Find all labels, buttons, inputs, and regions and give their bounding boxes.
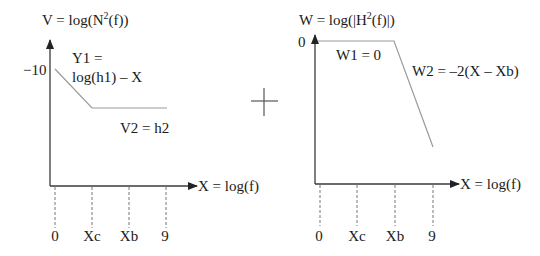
left-y-tick-label: −10	[23, 62, 46, 78]
left-x-tick-xb: Xb	[120, 228, 138, 244]
left-x-tick-xc: Xc	[83, 228, 101, 244]
right-x-tick-9: 9	[428, 228, 436, 244]
left-x-axis-label: X = log(f)	[198, 178, 259, 195]
right-x-tick-0: 0	[315, 228, 323, 244]
diagram-canvas: V = log(N2(f)) X = log(f) −10 Y1 = log(h…	[0, 0, 540, 256]
right-x-tick-xc: Xc	[348, 228, 366, 244]
right-segment2-label: W2 = –2(X – Xb)	[412, 63, 519, 80]
left-y-axis-label: V = log(N2(f))	[42, 10, 129, 29]
right-x-axis-label: X = log(f)	[460, 176, 521, 193]
left-x-tick-9: 9	[161, 228, 169, 244]
left-segment1-label-line2: log(h1) – X	[72, 69, 142, 86]
right-y-axis-label: W = log(|H2(f)|)	[299, 10, 395, 29]
right-tick-guides	[320, 185, 433, 226]
plus-icon	[251, 88, 278, 116]
left-x-tick-0: 0	[51, 228, 59, 244]
left-tick-guides	[55, 187, 166, 228]
left-plot: V = log(N2(f)) X = log(f) −10 Y1 = log(h…	[23, 10, 259, 244]
right-x-tick-xb: Xb	[386, 228, 404, 244]
right-segment1-label: W1 = 0	[336, 47, 381, 63]
left-segment2-label: V2 = h2	[120, 120, 169, 136]
left-segment1-label-line1: Y1 =	[72, 50, 103, 66]
right-plot: W = log(|H2(f)|) X = log(f) 0 W1 = 0 W2 …	[298, 10, 521, 244]
right-y-tick-label: 0	[298, 34, 306, 50]
